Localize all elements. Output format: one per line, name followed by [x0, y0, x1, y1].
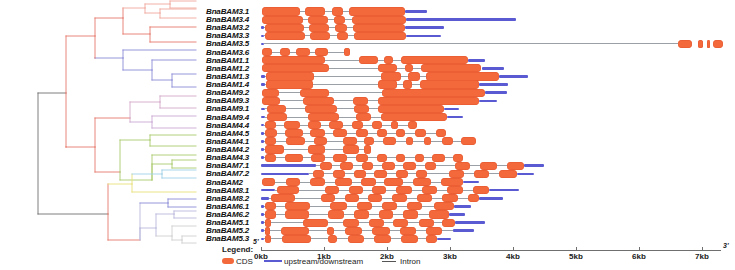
upstream-downstream-segment — [261, 108, 265, 111]
gene-structure-row — [0, 233, 735, 244]
upstream-downstream-segment — [261, 148, 264, 151]
legend-intron-swatch — [382, 261, 396, 262]
upstream-downstream-segment — [261, 221, 264, 224]
upstream-downstream-segment — [517, 173, 535, 176]
legend-cds-label: CDS — [236, 257, 253, 266]
upstream-downstream-segment — [405, 10, 428, 13]
upstream-downstream-segment — [261, 205, 264, 208]
upstream-downstream-segment — [479, 197, 503, 200]
cds-block — [401, 235, 419, 243]
cds-block — [265, 235, 271, 243]
upstream-downstream-segment — [261, 238, 264, 241]
legend-cds-swatch — [222, 258, 234, 264]
upstream-downstream-segment — [261, 156, 264, 159]
upstream-downstream-segment — [406, 35, 441, 38]
gene-structure-figure: BnaBAM3.1BnaBAM3.4BnaBAM3.2BnaBAM3.3BnaB… — [0, 0, 735, 270]
upstream-downstream-segment — [449, 213, 465, 216]
upstream-downstream-segment — [468, 59, 486, 62]
upstream-downstream-segment — [444, 108, 459, 111]
upstream-downstream-segment — [447, 116, 462, 119]
upstream-downstream-segment — [261, 189, 275, 192]
gene-structure-tracks — [0, 0, 735, 246]
upstream-downstream-segment — [261, 83, 265, 86]
upstream-downstream-segment — [479, 83, 508, 86]
axis-tick — [576, 247, 577, 251]
upstream-downstream-segment — [454, 205, 472, 208]
upstream-downstream-segment — [261, 213, 264, 216]
legend-title: Legend: — [222, 245, 253, 254]
upstream-downstream-segment — [261, 164, 316, 167]
axis-tick-label: 5kb — [569, 252, 583, 261]
intron-line — [264, 43, 679, 44]
legend: Legend: CDS upstream/downstream Intron — [222, 245, 522, 269]
axis-tick — [639, 247, 640, 251]
axis-tick — [702, 247, 703, 251]
upstream-downstream-segment — [261, 124, 264, 127]
upstream-downstream-segment — [479, 100, 497, 103]
upstream-downstream-segment — [261, 173, 309, 176]
axis-tick-label: 6kb — [632, 252, 646, 261]
upstream-downstream-segment — [482, 67, 505, 70]
upstream-downstream-segment — [437, 238, 451, 241]
upstream-downstream-segment — [261, 26, 264, 29]
upstream-downstream-segment — [453, 229, 474, 232]
upstream-downstream-segment — [406, 18, 516, 21]
upstream-downstream-segment — [261, 116, 265, 119]
legend-updown-label: upstream/downstream — [284, 257, 363, 266]
upstream-downstream-segment — [261, 229, 264, 232]
cds-block — [328, 235, 337, 243]
upstream-downstream-segment — [463, 181, 479, 184]
upstream-downstream-segment — [261, 132, 264, 135]
cds-block — [374, 235, 390, 243]
upstream-downstream-segment — [261, 140, 264, 143]
legend-intron-label: Intron — [400, 257, 420, 266]
upstream-downstream-segment — [405, 26, 444, 29]
cds-block — [282, 235, 311, 243]
upstream-downstream-segment — [261, 75, 265, 78]
upstream-downstream-segment — [524, 164, 544, 167]
upstream-downstream-segment — [261, 43, 264, 46]
cds-block — [426, 235, 437, 243]
upstream-downstream-segment — [489, 189, 519, 192]
three-prime-label: 3' — [723, 242, 729, 249]
upstream-downstream-segment — [499, 75, 528, 78]
upstream-downstream-segment — [261, 35, 264, 38]
upstream-downstream-segment — [455, 221, 485, 224]
legend-updown-swatch — [264, 260, 282, 262]
upstream-downstream-segment — [261, 197, 269, 200]
five-prime-label: 5' — [253, 238, 259, 245]
axis-tick-label: 7kb — [695, 252, 709, 261]
cds-block — [348, 235, 364, 243]
upstream-downstream-segment — [485, 91, 506, 94]
